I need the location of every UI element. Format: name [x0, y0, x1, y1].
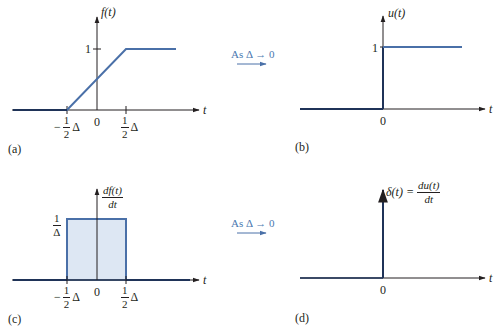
- panel-a-x-label: t: [203, 104, 206, 116]
- panel-a-caption: (a): [8, 143, 21, 155]
- frac-num: 1: [53, 213, 61, 226]
- delta-symbol: Δ: [131, 120, 139, 135]
- panel-a-right-tick-label: 12 Δ: [119, 115, 138, 140]
- frac-num: df(t): [102, 185, 123, 198]
- delta-symbol: Δ: [131, 290, 139, 305]
- ramp-curve: [13, 49, 176, 110]
- panel-b-origin: 0: [380, 115, 386, 127]
- delta-symbol: Δ: [72, 120, 80, 135]
- frac-num: du(t): [417, 180, 440, 193]
- panel-a-origin: 0: [94, 116, 100, 128]
- delta-symbol: Δ: [72, 290, 80, 305]
- panel-a-left-tick-label: − 12 Δ: [54, 115, 80, 140]
- frac-den: 2: [122, 298, 128, 310]
- panel-b-plot: [300, 16, 485, 109]
- frac-den: 2: [64, 128, 70, 140]
- transition-label-bottom: As Δ → 0: [231, 218, 274, 229]
- panel-d-y-label: δ(t) = du(t)dt: [386, 180, 440, 205]
- panel-a-y-tick: 1: [85, 43, 91, 55]
- frac-den: 2: [122, 128, 128, 140]
- panel-b-caption: (b): [295, 141, 309, 153]
- panel-c-origin: 0: [94, 286, 100, 298]
- minus-sign: −: [54, 120, 61, 135]
- panel-b-y-tick: 1: [372, 42, 378, 54]
- panel-c-right-tick-label: 12 Δ: [119, 285, 138, 310]
- frac-num: 1: [63, 115, 71, 128]
- panel-b-x-label: t: [489, 103, 492, 115]
- panel-c-caption: (c): [8, 313, 21, 325]
- panel-c-y-label: df(t) dt: [102, 185, 123, 210]
- panel-a-plot: [12, 17, 199, 114]
- frac-num: 1: [121, 115, 129, 128]
- frac-den: 2: [64, 298, 70, 310]
- panel-d-x-label: t: [489, 272, 492, 284]
- minus-sign: −: [54, 290, 61, 305]
- frac-num: 1: [121, 285, 129, 298]
- panel-d-caption: (d): [295, 312, 309, 324]
- panel-c-y-tick: 1 Δ: [53, 213, 61, 238]
- frac-num: 1: [63, 285, 71, 298]
- frac-den: dt: [108, 198, 117, 210]
- frac-den: dt: [424, 193, 433, 205]
- panel-b-y-label: u(t): [388, 7, 405, 19]
- transition-label-top: As Δ → 0: [231, 49, 274, 60]
- frac-den: Δ: [53, 226, 60, 238]
- panel-c-left-tick-label: − 12 Δ: [54, 285, 80, 310]
- panel-c-x-label: t: [203, 274, 206, 286]
- delta-function-lhs: δ(t) =: [386, 185, 414, 200]
- panel-a-y-label: f(t): [101, 6, 116, 18]
- panel-d-origin: 0: [380, 284, 386, 296]
